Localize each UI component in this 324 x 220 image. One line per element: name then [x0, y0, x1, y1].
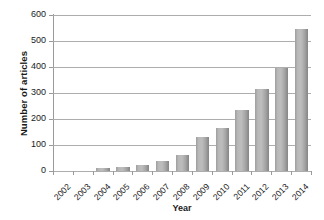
bar-2004 [96, 168, 109, 171]
bar-2010 [216, 128, 229, 171]
bars-layer [53, 15, 311, 171]
x-tick-mark-8 [212, 171, 213, 175]
x-tick-mark-4 [132, 171, 133, 175]
bar-2005 [116, 167, 129, 171]
x-tick-mark-11 [271, 171, 272, 175]
x-tick-mark-5 [152, 171, 153, 175]
y-tick-label-600: 600 [20, 10, 46, 19]
bar-2013 [275, 68, 288, 171]
bar-2011 [235, 110, 248, 171]
bar-2008 [176, 155, 189, 171]
x-tick-mark-0 [53, 171, 54, 175]
y-tick-label-0: 0 [20, 166, 46, 175]
bar-2006 [136, 165, 149, 172]
x-tick-mark-10 [251, 171, 252, 175]
x-tick-mark-7 [192, 171, 193, 175]
x-tick-mark-12 [291, 171, 292, 175]
x-tick-mark-6 [172, 171, 173, 175]
bar-2014 [295, 29, 308, 171]
bar-2007 [156, 161, 169, 171]
x-tick-mark-13 [311, 171, 312, 175]
gridline-0 [53, 171, 311, 172]
x-tick-mark-2 [93, 171, 94, 175]
bar-2012 [255, 89, 268, 171]
x-tick-mark-1 [73, 171, 74, 175]
x-tick-mark-3 [113, 171, 114, 175]
x-tick-mark-9 [232, 171, 233, 175]
bar-2009 [196, 137, 209, 171]
y-axis-title: Number of articles [18, 24, 29, 164]
bar-chart: Number of articles 0100200300400500600 Y… [0, 0, 324, 220]
